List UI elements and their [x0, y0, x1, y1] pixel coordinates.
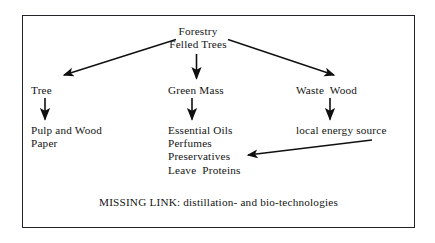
- node-essential-oils-list: Essential Oils Perfumes Preservatives Le…: [168, 124, 241, 177]
- diagram-caption-missing-link: MISSING LINK: distillation- and bio-tech…: [22, 196, 415, 210]
- node-pulp-and-wood-paper: Pulp and Wood Paper: [31, 124, 102, 150]
- node-forestry-felled-trees: Forestry Felled Trees: [157, 25, 239, 51]
- node-green-mass: Green Mass: [168, 84, 224, 97]
- node-tree: Tree: [31, 84, 52, 97]
- node-local-energy-source: local energy source: [296, 124, 387, 137]
- node-waste-wood: Waste Wood: [296, 84, 357, 97]
- diagram-canvas: Forestry Felled Trees Tree Green Mass Wa…: [0, 0, 435, 243]
